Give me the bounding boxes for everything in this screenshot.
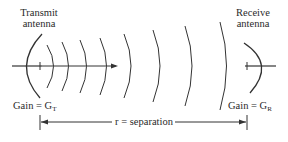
- wavefront: [220, 22, 227, 110]
- transmit-label-line2: antenna: [14, 18, 64, 29]
- propagation-arrowhead: [111, 64, 118, 69]
- receive-label-line1: Receive: [228, 7, 278, 18]
- wavefront: [185, 26, 192, 106]
- receive-gain-subscript: R: [267, 105, 272, 113]
- receive-gain-text: Gain = G: [228, 100, 267, 111]
- wavefront: [124, 34, 131, 98]
- transmit-gain-label: Gain = GT: [13, 100, 73, 115]
- transmit-label-line1: Transmit: [14, 7, 64, 18]
- receive-label-line2: antenna: [228, 18, 278, 29]
- transmit-gain-subscript: T: [52, 105, 56, 113]
- transmit-antenna-label: Transmit antenna: [14, 7, 64, 29]
- separation-arrowhead-left: [41, 120, 48, 125]
- wavefront: [153, 30, 160, 102]
- separation-arrowhead-right: [239, 120, 246, 125]
- receive-antenna-label: Receive antenna: [228, 7, 278, 29]
- separation-label: r = separation: [110, 116, 178, 127]
- receive-gain-label: Gain = GR: [228, 100, 288, 115]
- transmit-gain-text: Gain = G: [13, 100, 52, 111]
